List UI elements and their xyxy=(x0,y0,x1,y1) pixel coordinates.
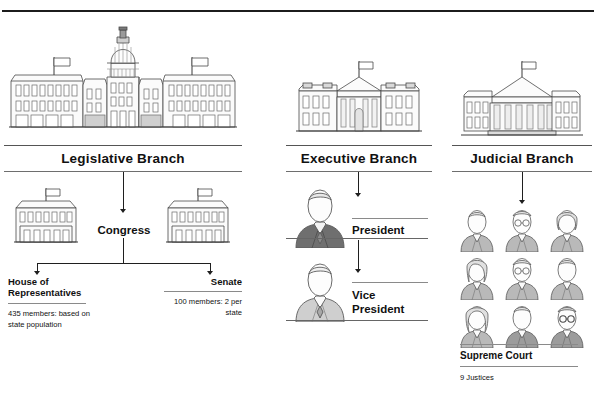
branch-title-executive: Executive Branch xyxy=(286,146,432,171)
senate-rule xyxy=(164,291,242,292)
branch-heading-judicial: Judicial Branch xyxy=(452,145,592,172)
branch-title-judicial: Judicial Branch xyxy=(452,146,592,171)
justices-grid xyxy=(458,208,586,348)
supreme-court-building-icon xyxy=(452,20,592,145)
arrow-to-supreme-court xyxy=(519,200,525,204)
node-vice-president: Vice President xyxy=(352,282,428,321)
connector-congress-down xyxy=(123,238,124,263)
person-dark-suit-icon xyxy=(290,186,350,252)
arrow-to-vice-president xyxy=(355,269,361,273)
page-title-clipped: The Three Branches of Government xyxy=(0,0,596,3)
congress-building-icon-house xyxy=(10,186,82,252)
branch-heading-executive: Executive Branch xyxy=(286,145,432,172)
node-house: House of Representatives 435 members: ba… xyxy=(8,276,94,331)
justice-person-icon xyxy=(547,304,586,348)
capitol-building-icon xyxy=(4,20,242,145)
node-supreme-court: Supreme Court 9 Justices xyxy=(460,344,586,384)
justice-person-icon xyxy=(458,304,497,348)
legislative-tree: Congress House of Representatives 435 me… xyxy=(4,172,242,347)
president-label: President xyxy=(352,219,428,240)
justice-person-icon xyxy=(547,208,586,252)
executive-tree: President xyxy=(286,172,432,357)
page-title: The Three Branches of Government xyxy=(0,0,596,3)
white-house-icon xyxy=(286,20,432,145)
vice-president-rule-bottom xyxy=(286,320,428,321)
branch-heading-legislative: Legislative Branch xyxy=(4,145,242,172)
connector-to-vice-president xyxy=(358,240,359,270)
arrow-to-senate xyxy=(207,271,213,275)
diagram-canvas: The Three Branches of Government xyxy=(0,0,596,415)
judicial-tree: Supreme Court 9 Justices xyxy=(452,172,592,367)
node-senate: Senate 100 members: 2 per state xyxy=(156,276,242,319)
president-rule-bottom xyxy=(286,238,428,239)
branch-column-executive: Executive Branch xyxy=(286,20,432,357)
justice-person-icon xyxy=(547,256,586,300)
congress-building-icon-senate xyxy=(162,186,234,252)
justice-person-icon xyxy=(458,256,497,300)
branch-title-legislative: Legislative Branch xyxy=(4,146,242,171)
supreme-court-detail: 9 Justices xyxy=(460,367,586,383)
senate-label: Senate xyxy=(156,276,242,288)
node-congress: Congress xyxy=(88,224,160,236)
house-rule xyxy=(8,303,86,304)
justice-person-icon xyxy=(503,208,542,252)
justice-person-icon xyxy=(503,256,542,300)
house-detail: 435 members: based on state population xyxy=(8,308,94,330)
justice-person-icon xyxy=(503,304,542,348)
house-label: House of Representatives xyxy=(8,276,94,300)
node-president: President xyxy=(352,218,428,240)
connector-split-horizontal xyxy=(37,263,210,264)
supreme-court-label: Supreme Court xyxy=(460,345,586,367)
branch-column-legislative: Legislative Branch xyxy=(4,20,242,347)
senate-detail: 100 members: 2 per state xyxy=(156,296,242,318)
justice-person-icon xyxy=(458,208,497,252)
connector-to-congress xyxy=(123,172,124,210)
arrow-to-congress xyxy=(120,209,126,213)
connector-to-president xyxy=(358,172,359,194)
connector-to-supreme-court xyxy=(522,172,523,201)
header-divider xyxy=(2,10,594,12)
vice-president-label: Vice President xyxy=(352,283,428,321)
person-light-suit-icon xyxy=(290,260,350,326)
arrow-to-president xyxy=(355,193,361,197)
branch-column-judicial: Judicial Branch xyxy=(452,20,592,367)
arrow-to-house xyxy=(34,271,40,275)
